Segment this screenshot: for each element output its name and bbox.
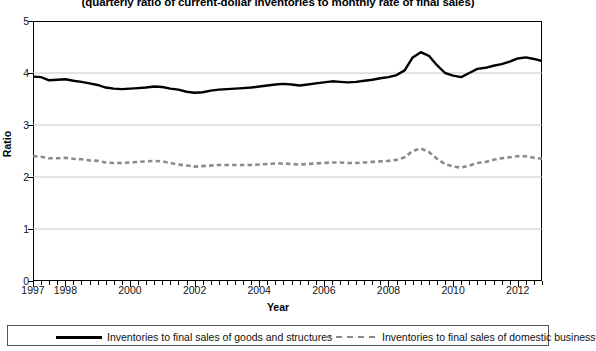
y-tick-label: 5 xyxy=(3,16,29,26)
y-tick-mark xyxy=(28,125,34,126)
y-tick-mark xyxy=(28,177,34,178)
y-tick-label: 4 xyxy=(3,68,29,78)
chart-title: (quarterly ratio of current-dollar inven… xyxy=(0,0,556,9)
data-line-domestic-business xyxy=(33,148,542,167)
y-tick-mark xyxy=(28,73,34,74)
x-tick-label: 2006 xyxy=(304,285,344,296)
data-series-group xyxy=(33,52,542,167)
x-tick-label: 2000 xyxy=(110,285,150,296)
legend-label-domestic-business: Inventories to final sales of domestic b… xyxy=(382,331,596,343)
x-tick-label: 2008 xyxy=(368,285,408,296)
x-tick-label: 2012 xyxy=(498,285,538,296)
chart-legend: Inventories to final sales of goods and … xyxy=(7,325,549,346)
y-tick-mark xyxy=(28,229,34,230)
legend-label-goods-and-structures: Inventories to final sales of goods and … xyxy=(107,331,332,343)
plot-svg xyxy=(33,21,542,281)
x-tick-label: 2010 xyxy=(433,285,473,296)
data-line-goods-and-structures xyxy=(33,52,542,93)
x-tick-label: 1998 xyxy=(45,285,85,296)
legend-entry-domestic-business: Inventories to final sales of domestic b… xyxy=(323,326,596,347)
legend-swatch-dashed-line-icon xyxy=(323,332,377,342)
legend-swatch-solid-line-icon xyxy=(56,332,102,342)
y-axis-title: Ratio xyxy=(1,114,13,174)
gridlines xyxy=(33,73,542,229)
x-axis-tick-labels: 199719982000200220042006200820102012 xyxy=(0,285,556,299)
y-tick-mark xyxy=(28,21,34,22)
x-tick-label: 2002 xyxy=(175,285,215,296)
x-axis-title: Year xyxy=(0,301,556,313)
legend-entry-goods-and-structures: Inventories to final sales of goods and … xyxy=(56,326,332,347)
x-tick-label: 2004 xyxy=(239,285,279,296)
y-tick-label: 1 xyxy=(3,224,29,234)
